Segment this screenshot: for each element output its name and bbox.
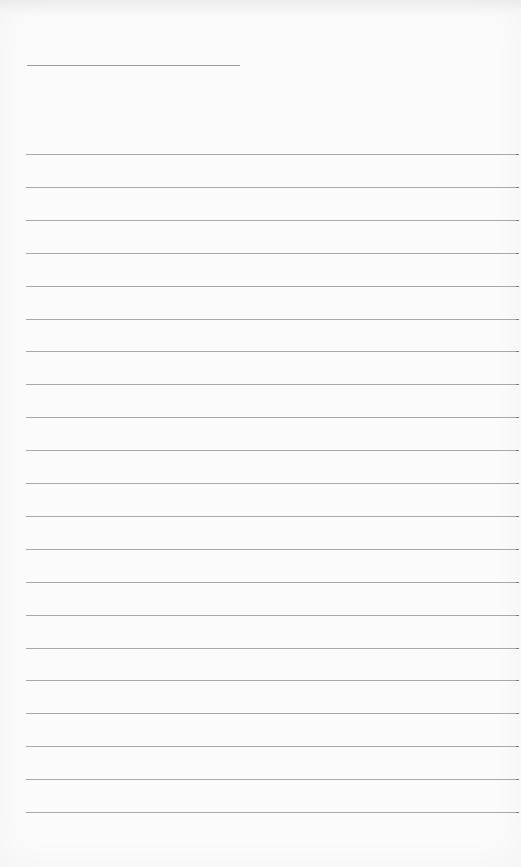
ruled-line	[26, 812, 517, 813]
ruled-line	[26, 319, 517, 320]
ruled-line	[26, 253, 517, 254]
scan-edge-noise	[0, 0, 521, 14]
ruled-line	[26, 384, 517, 385]
title-line	[27, 65, 240, 66]
ruled-line	[26, 779, 517, 780]
ruled-line	[26, 154, 517, 155]
ruled-line	[26, 713, 517, 714]
ruled-line	[26, 187, 517, 188]
ruled-line	[26, 450, 517, 451]
ruled-line	[26, 615, 517, 616]
ruled-line	[26, 680, 517, 681]
ruled-line	[26, 483, 517, 484]
ruled-line	[26, 286, 517, 287]
ruled-line	[26, 220, 517, 221]
ruled-line	[26, 582, 517, 583]
ruled-line	[26, 746, 517, 747]
ruled-line	[26, 549, 517, 550]
ruled-line	[26, 516, 517, 517]
lined-paper-sheet	[0, 0, 521, 867]
ruled-line	[26, 351, 517, 352]
ruled-line	[26, 417, 517, 418]
ruled-line	[26, 648, 517, 649]
